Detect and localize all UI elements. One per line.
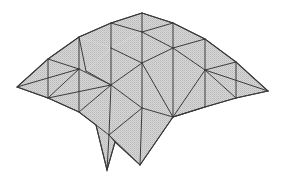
- mesh-face: [140, 108, 173, 165]
- mesh-diagram: [0, 0, 284, 179]
- triangulated-surface: [0, 0, 284, 179]
